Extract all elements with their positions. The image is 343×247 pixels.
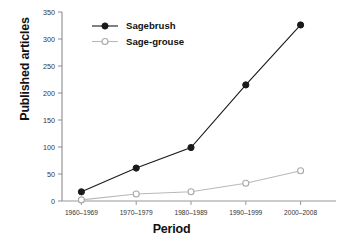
- series-line-sagebrush: [81, 25, 300, 192]
- chart-figure: Published articles Period 05010015020025…: [0, 0, 343, 247]
- data-point-sagebrush[interactable]: [133, 165, 139, 171]
- legend-label-sage-grouse[interactable]: Sage-grouse: [126, 36, 184, 47]
- legend-marker-sagebrush: [102, 23, 108, 29]
- x-axis-tick-label: 1980–1989: [174, 209, 207, 216]
- y-axis-tick-label: 150: [43, 116, 55, 125]
- data-point-sage-grouse[interactable]: [298, 168, 304, 174]
- legend-label-sagebrush[interactable]: Sagebrush: [126, 20, 176, 31]
- x-axis-tick-label: 1970–1979: [120, 209, 153, 216]
- x-axis-tick-label: 1960–1969: [65, 209, 98, 216]
- x-axis-tick-group: 1960–19691970–19791980–19891990–19992000…: [65, 201, 318, 216]
- y-axis-tick-label: 300: [43, 35, 55, 44]
- data-point-sagebrush[interactable]: [298, 22, 304, 28]
- y-axis-tick-label: 200: [43, 89, 55, 98]
- y-axis-tick-label: 50: [47, 170, 55, 179]
- legend-marker-sage-grouse: [102, 39, 108, 45]
- y-axis-tick-label: 350: [43, 8, 55, 17]
- x-axis-tick-label: 1990–1999: [229, 209, 262, 216]
- data-point-sage-grouse[interactable]: [188, 189, 194, 195]
- series-line-sage-grouse: [81, 171, 300, 200]
- data-point-sagebrush[interactable]: [78, 189, 84, 195]
- y-axis-tick-label: 0: [51, 197, 55, 206]
- x-axis-tick-label: 2000–2008: [284, 209, 317, 216]
- line-chart-plot: 050100150200250300350 1960–19691970–1979…: [0, 0, 343, 247]
- y-axis-tick-group: 050100150200250300350: [43, 8, 62, 206]
- chart-legend: SagebrushSage-grouse: [92, 20, 184, 47]
- data-point-sagebrush[interactable]: [243, 82, 249, 88]
- y-axis-tick-label: 100: [43, 143, 55, 152]
- data-series-layer: [78, 22, 303, 203]
- data-point-sage-grouse[interactable]: [78, 197, 84, 203]
- data-point-sagebrush[interactable]: [188, 144, 194, 150]
- data-point-sage-grouse[interactable]: [243, 180, 249, 186]
- y-axis-tick-label: 250: [43, 62, 55, 71]
- data-point-sage-grouse[interactable]: [133, 191, 139, 197]
